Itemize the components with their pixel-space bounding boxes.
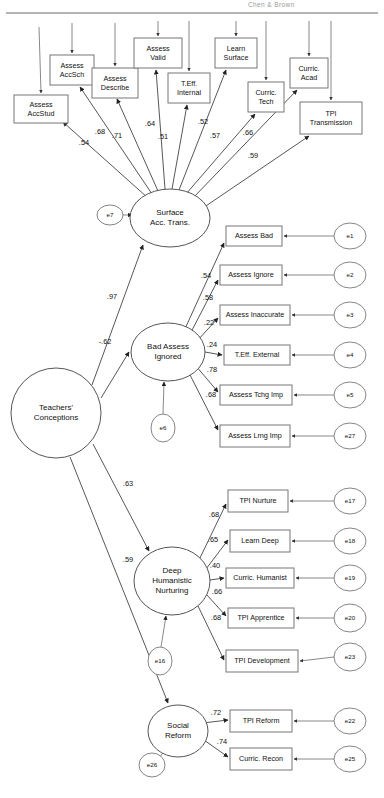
- indicator-label: Curric.Acad: [298, 63, 319, 81]
- coefficient-c-bad-5: .78: [207, 365, 217, 374]
- indicator-tpi-reform: TPI Reform: [230, 710, 292, 732]
- coefficient-c-deep-2: .65: [208, 535, 218, 544]
- error-label: e19: [345, 574, 356, 581]
- coefficient-c-bad-3: .22: [204, 318, 214, 327]
- coefficient-c-bad-2: .58: [203, 293, 213, 302]
- coefficient-c-deep-3: .40: [210, 561, 220, 570]
- indicator-assess-tchg-imp: Assess Tchg Imp: [220, 385, 292, 405]
- structural-paths: [70, 245, 168, 703]
- load-bad-teffexternal: [205, 352, 222, 355]
- latent-label: Teachers'Conceptions: [34, 403, 78, 422]
- error-label: e25: [345, 755, 356, 762]
- coefficient-c-curtech: .57: [210, 131, 220, 140]
- coefficient-c-soc-1: .72: [211, 708, 221, 717]
- error-e23: e23: [334, 643, 366, 671]
- load-deep-curhumanist: [210, 578, 224, 580]
- load-surface-valid: [156, 70, 165, 189]
- coefficient-c-bad-1: .54: [201, 271, 211, 280]
- error-label: e3: [347, 311, 354, 318]
- coefficient-c-struct-deep: .63: [123, 479, 133, 488]
- latent-deep: DeepHumanisticNurturing: [134, 547, 210, 615]
- coefficient-c-accstud: .54: [79, 138, 89, 147]
- error-label: e7: [107, 211, 114, 218]
- indicator-label: Curric.Tech: [255, 87, 276, 105]
- distlink-e16: [161, 616, 166, 647]
- indicator-label: TPI Reform: [243, 716, 280, 725]
- error-label: e1: [347, 232, 354, 239]
- load-surface-describe: [117, 99, 158, 191]
- indicator-label: AssessAccSch: [60, 60, 84, 78]
- indicator-tpi-nurture: TPI Nurture: [228, 490, 288, 512]
- indicator-assess-lrng-imp: Assess Lrng Imp: [220, 425, 290, 447]
- coefficient-c-struct-bad: -.62: [99, 337, 112, 346]
- error-e4: e4: [334, 342, 366, 368]
- indicator-label: Assess Lrng Imp: [228, 431, 282, 440]
- indicator-curric-recon: Curric. Recon: [230, 748, 292, 770]
- coefficient-c-bad-6: .68: [206, 390, 216, 399]
- indicator-label: TPI Apprentice: [237, 613, 284, 622]
- load-surface-accsch: [80, 87, 152, 194]
- latent-surface: SurfaceAcc. Trans.: [130, 189, 210, 247]
- indicator-assess-bad: Assess Bad: [226, 226, 282, 246]
- indicator-learn-surface: LearnSurface: [215, 38, 257, 68]
- latent-social: SocialReform: [148, 705, 208, 757]
- error-e17: e17: [334, 488, 366, 514]
- load-surface-accstud: [63, 122, 148, 198]
- error-label: e4: [347, 351, 354, 358]
- error-e19: e19: [334, 565, 366, 591]
- coefficient-c-deep-5: .68: [211, 613, 221, 622]
- indicator-label: Assess Tchg Imp: [229, 390, 283, 399]
- path-teachers-to-bad: [101, 352, 129, 398]
- indicator-label: LearnSurface: [224, 43, 249, 61]
- errlink-e23: [300, 657, 334, 661]
- error-e16: e16: [148, 647, 172, 675]
- error-e7: e7: [97, 205, 123, 225]
- coefficient-c-curacad: .66: [243, 128, 253, 137]
- coefficient-c-describe: .71: [112, 131, 122, 140]
- coefficient-c-learnsurf: .52: [198, 117, 208, 126]
- indicator-learn-deep: Learn Deep: [230, 530, 290, 552]
- sem-diagram-canvas: Chen & Brown: [0, 0, 384, 798]
- latent-ellipses: SurfaceAcc. Trans.Bad AssessIgnoredDeepH…: [11, 189, 210, 757]
- load-bad-lrngimp: [188, 371, 218, 430]
- error-e1: e1: [334, 223, 366, 249]
- latent-bad: Bad AssessIgnored: [131, 323, 205, 381]
- coefficient-c-accsch: .68: [95, 127, 105, 136]
- indicator-assess-ignore: Assess Ignore: [220, 265, 282, 285]
- indicator-assess-inaccurate: Assess Inaccurate: [220, 305, 290, 325]
- error-label: e20: [345, 614, 356, 621]
- indicator-label: Curric. Humanist: [233, 573, 287, 582]
- error-e5: e5: [334, 382, 366, 408]
- indicator-label: TPI Development: [234, 656, 290, 665]
- error-e3: e3: [334, 302, 366, 328]
- error-e25: e25: [334, 746, 366, 772]
- indicator-label: Assess Inaccurate: [226, 310, 285, 319]
- error-e22: e22: [334, 708, 366, 734]
- indicator-label: Learn Deep: [241, 536, 279, 545]
- load-surface-curtech: [186, 114, 255, 194]
- indicator-tpi-development: TPI Development: [226, 650, 298, 672]
- coefficient-c-struct-social: .59: [123, 555, 133, 564]
- indicator-label: AssessDescribe: [101, 73, 129, 91]
- coefficient-c-teffint: .51: [158, 132, 168, 141]
- error-label: e17: [345, 497, 356, 504]
- error-e2: e2: [334, 262, 366, 288]
- coefficient-c-deep-4: .66: [212, 587, 222, 596]
- indicator-assess-accsch: AssessAccSch: [50, 55, 94, 85]
- error-label: e16: [155, 657, 166, 664]
- error-label: e6: [160, 424, 167, 431]
- coefficient-c-deep-1: .68: [209, 510, 219, 519]
- error-e26: e26: [139, 753, 165, 777]
- error-e6: e6: [151, 414, 175, 442]
- indicator-tpi-transmission: TPITransmission: [300, 102, 362, 134]
- indicator-assess-describe: AssessDescribe: [92, 68, 138, 98]
- indicator-curric-humanist: Curric. Humanist: [226, 568, 294, 588]
- error-e27: e27: [334, 423, 366, 449]
- indicator-teff-external: T.Eff. External: [224, 345, 290, 365]
- error-label: e27: [345, 432, 356, 439]
- load-surface-tpitransmission: [197, 136, 309, 212]
- indicator-curric-tech: Curric.Tech: [248, 82, 284, 112]
- indicator-assess-valid: AssessValid: [134, 38, 182, 68]
- error-label: e26: [147, 761, 158, 768]
- indicator-label: TPI Nurture: [239, 496, 276, 505]
